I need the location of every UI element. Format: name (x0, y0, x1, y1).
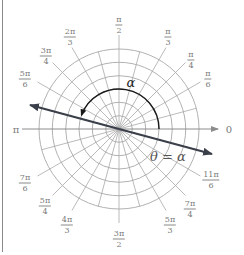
fraction-denominator: 3 (64, 226, 69, 235)
angle-label-4pi-over-3: 4π3 (61, 216, 73, 235)
polar-grid (0, 0, 244, 255)
fraction-numerator: π (115, 16, 122, 26)
fraction-numerator: 5π (19, 70, 31, 80)
angle-label-pi-over-6: π6 (204, 70, 211, 89)
angle-label-pi-over-2: π2 (115, 16, 122, 35)
fraction-numerator: π (187, 51, 194, 61)
fraction-denominator: 3 (67, 38, 72, 47)
fraction-numerator: π (204, 70, 211, 80)
fraction-numerator: 7π (19, 174, 31, 184)
axis-label-pi: π (13, 125, 20, 135)
angle-label-5pi-over-4: 5π4 (39, 197, 51, 216)
fraction-denominator: 4 (42, 207, 47, 216)
alpha-label: α (127, 75, 136, 90)
fraction-denominator: 4 (43, 57, 48, 66)
fraction-denominator: 6 (208, 181, 213, 190)
fraction-numerator: 4π (61, 216, 73, 226)
fraction-numerator: 3π (113, 230, 125, 240)
angle-label-7pi-over-4: 7π4 (184, 200, 196, 219)
angle-label-pi-over-4: π4 (187, 51, 194, 70)
axis-label-zero: 0 (226, 125, 232, 135)
fraction-denominator: 4 (188, 61, 193, 70)
angle-label-3pi-over-2: 3π2 (113, 230, 125, 249)
fraction-denominator: 4 (187, 210, 192, 219)
angle-label-11pi-over-6: 11π6 (202, 171, 219, 190)
angle-label-pi-over-3: π3 (164, 28, 171, 47)
angle-label-3pi-over-4: 3π4 (40, 47, 52, 66)
fraction-numerator: π (164, 28, 171, 38)
fraction-denominator: 6 (22, 80, 27, 89)
polar-diagram: π2π3π4π62π33π45π67π65π44π33π25π37π411π6 … (0, 0, 244, 255)
fraction-denominator: 2 (116, 26, 121, 35)
fraction-numerator: 5π (39, 197, 51, 207)
fraction-numerator: 11π (202, 171, 219, 181)
angle-label-5pi-over-6: 5π6 (19, 70, 31, 89)
fraction-denominator: 3 (167, 226, 172, 235)
angle-label-5pi-over-3: 5π3 (164, 216, 176, 235)
fraction-denominator: 6 (205, 80, 210, 89)
fraction-denominator: 3 (165, 38, 170, 47)
angle-label-2pi-over-3: 2π3 (64, 28, 76, 47)
fraction-numerator: 2π (64, 28, 76, 38)
fraction-numerator: 3π (40, 47, 52, 57)
fraction-numerator: 7π (184, 200, 196, 210)
fraction-numerator: 5π (164, 216, 176, 226)
fraction-denominator: 6 (22, 184, 27, 193)
fraction-denominator: 2 (116, 240, 121, 249)
angle-label-7pi-over-6: 7π6 (19, 174, 31, 193)
theta-equals-alpha-label: θ = α (150, 149, 186, 164)
